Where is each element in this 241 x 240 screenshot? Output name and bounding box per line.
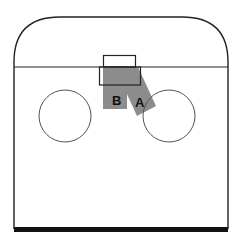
outer-frame: [14, 17, 228, 229]
diagram-canvas: B A: [0, 0, 241, 240]
label-b: B: [112, 93, 121, 108]
floor-bar: [14, 227, 228, 232]
upper-box: [104, 56, 136, 68]
right-circle: [143, 90, 195, 142]
left-circle: [39, 90, 91, 142]
label-a: A: [135, 95, 145, 110]
